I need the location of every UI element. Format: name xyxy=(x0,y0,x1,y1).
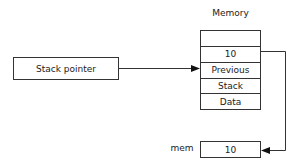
copy-arrow xyxy=(261,52,286,155)
pointer-arrow xyxy=(119,65,200,72)
connector-arrows xyxy=(0,0,299,165)
